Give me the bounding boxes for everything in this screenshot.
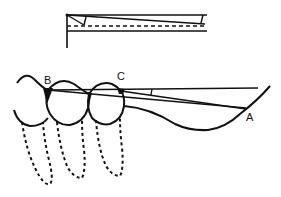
inset-right-tick — [201, 15, 203, 23]
roots — [22, 118, 123, 184]
root-1 — [22, 122, 52, 184]
teeth-profile — [14, 76, 270, 130]
tooth3-crown-top — [89, 83, 121, 94]
label-b: B — [44, 74, 51, 86]
root-2 — [57, 120, 85, 178]
label-a: A — [246, 111, 254, 123]
inset-sloped-line — [67, 15, 205, 24]
inset-schematic — [66, 14, 208, 49]
inset-left-tick — [84, 17, 86, 25]
root-3 — [96, 118, 123, 176]
angle-tick — [151, 89, 152, 95]
alveolar-ridge-line — [124, 86, 270, 130]
tooth2-crown-body — [46, 90, 89, 125]
reference-line-c-to-a — [121, 91, 246, 109]
label-c: C — [117, 70, 125, 82]
dental-diagram: B C A — [0, 0, 281, 197]
inset-corner-dot — [66, 14, 69, 17]
tooth1-crown-top — [17, 76, 47, 90]
